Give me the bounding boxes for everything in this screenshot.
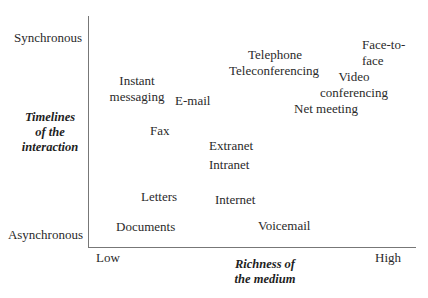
- label-voicemail: Voicemail: [258, 218, 310, 233]
- label-extranet: Extranet: [209, 138, 253, 153]
- label-letters: Letters: [141, 189, 177, 204]
- y-tick-asynchronous: Asynchronous: [8, 227, 83, 242]
- label-face-to-face: Face-to- face: [362, 37, 405, 69]
- label-email: E-mail: [175, 93, 210, 108]
- label-line: conferencing: [318, 85, 390, 101]
- label-internet: Internet: [215, 192, 255, 207]
- x-tick-low: Low: [96, 250, 120, 265]
- x-axis-title-line: the medium: [205, 272, 325, 287]
- x-axis-line: [88, 247, 416, 248]
- label-telephone: Telephone: [248, 47, 302, 62]
- y-axis-title-line: interaction: [10, 140, 90, 155]
- label-teleconferencing: Teleconferencing: [229, 63, 319, 78]
- x-axis-title-line: Richness of: [205, 257, 325, 272]
- label-documents: Documents: [116, 219, 175, 234]
- label-line: Face-to-: [362, 37, 405, 53]
- label-fax: Fax: [150, 123, 170, 138]
- y-axis-title-line: Timelines: [10, 110, 90, 125]
- x-axis-title: Richness of the medium: [205, 257, 325, 287]
- label-video-conferencing: Video conferencing: [318, 69, 390, 101]
- y-axis-title-line: of the: [10, 125, 90, 140]
- label-line: Instant: [100, 73, 174, 89]
- label-line: face: [362, 53, 405, 69]
- label-instant-messaging: Instant messaging: [100, 73, 174, 105]
- label-intranet: Intranet: [209, 157, 249, 172]
- x-tick-high: High: [375, 250, 401, 265]
- label-line: messaging: [100, 89, 174, 105]
- label-net-meeting: Net meeting: [294, 101, 358, 116]
- y-axis-title: Timelines of the interaction: [10, 110, 90, 155]
- y-tick-synchronous: Synchronous: [14, 30, 82, 45]
- label-line: Video: [318, 69, 390, 85]
